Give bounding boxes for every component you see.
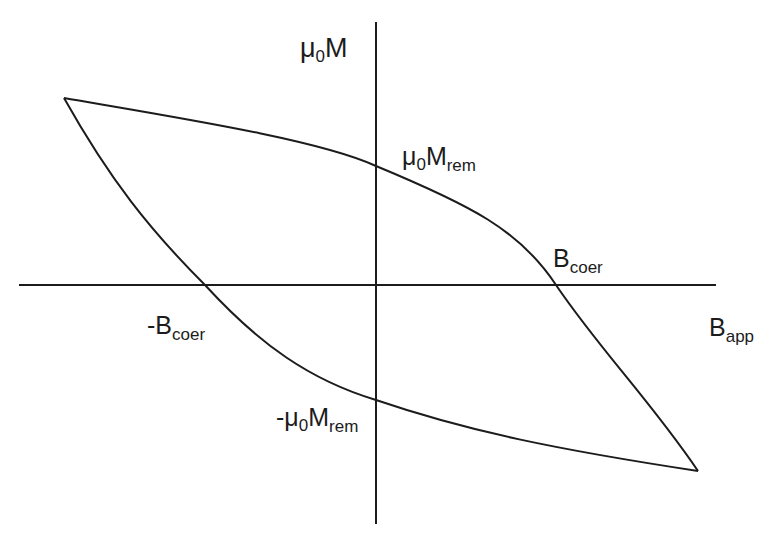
remanence-positive-sub: rem: [447, 156, 476, 175]
x-axis-label-sub: app: [726, 327, 754, 346]
y-axis-label-tail: M: [325, 33, 348, 63]
remanence-positive-tail: M: [426, 142, 447, 170]
x-axis-label: Bapp: [709, 315, 754, 340]
remanence-positive-main: μ: [402, 142, 416, 170]
y-axis-label-main: μ: [300, 33, 316, 63]
coercive-negative-sub: coer: [172, 325, 205, 344]
coercive-positive-label: Bcoer: [553, 246, 603, 271]
coercive-negative-main: -B: [147, 311, 172, 339]
diagram-svg: [0, 0, 781, 547]
coercive-negative-label: -Bcoer: [147, 313, 205, 338]
remanence-negative-main: -μ: [276, 403, 299, 431]
remanence-positive-sub0: 0: [416, 155, 425, 174]
coercive-positive-sub: coer: [570, 258, 603, 277]
y-axis-label-sub0: 0: [316, 47, 325, 66]
remanence-negative-tail: M: [308, 403, 329, 431]
x-axis-label-main: B: [709, 313, 726, 341]
y-axis-label: μ0M: [300, 35, 348, 62]
hysteresis-diagram: μ0M μ0Mrem -μ0Mrem Bcoer -Bcoer Bapp: [0, 0, 781, 547]
remanence-negative-sub: rem: [329, 417, 358, 436]
coercive-positive-main: B: [553, 244, 570, 272]
remanence-positive-label: μ0Mrem: [402, 144, 476, 169]
remanence-negative-sub0: 0: [299, 416, 308, 435]
remanence-negative-label: -μ0Mrem: [276, 405, 358, 430]
